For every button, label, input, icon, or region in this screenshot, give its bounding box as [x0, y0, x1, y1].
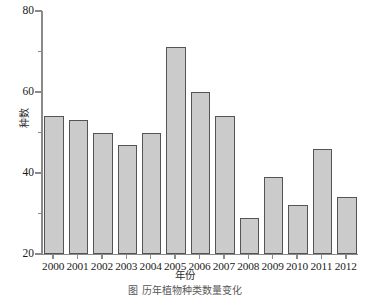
bar-rect [288, 205, 308, 254]
bar-rect [264, 177, 284, 254]
bar [288, 205, 308, 254]
bar [142, 133, 162, 255]
x-tick [150, 255, 152, 259]
y-tick-major [35, 91, 42, 93]
x-axis-title: 年份 [0, 270, 370, 281]
bar-rect [337, 197, 357, 254]
bar [118, 145, 138, 254]
bar [93, 133, 113, 255]
x-tick [101, 255, 103, 259]
bar [69, 120, 89, 254]
bar [337, 197, 357, 254]
plot-area [42, 12, 358, 254]
bar-rect [313, 149, 333, 254]
bar-rect [240, 218, 260, 254]
y-tick-label: 20 [0, 248, 34, 259]
x-tick [272, 255, 274, 259]
bar [240, 218, 260, 254]
x-tick [174, 255, 176, 259]
y-tick-label: 40 [0, 167, 34, 178]
bar [313, 149, 333, 254]
bar-rect [69, 120, 89, 254]
figure-caption: 图 历年植物种类数量变化 [0, 285, 370, 295]
bar-rect [142, 133, 162, 255]
x-tick [296, 255, 298, 259]
y-tick-label: 80 [0, 5, 34, 16]
bar-series [42, 12, 358, 254]
x-axis-ticks: 2000200120022003200420052006200720082009… [41, 255, 358, 271]
x-tick [248, 255, 250, 259]
bar-rect [191, 92, 211, 254]
bar [166, 47, 186, 254]
bar-rect [118, 145, 138, 254]
x-tick [52, 255, 54, 259]
x-tick [199, 255, 201, 259]
x-tick [345, 255, 347, 259]
x-tick [77, 255, 79, 259]
bar [44, 116, 64, 254]
x-tick [223, 255, 225, 259]
x-tick [321, 255, 323, 259]
bar-rect [93, 133, 113, 255]
bar-rect [166, 47, 186, 254]
y-axis-title: 种数 [20, 95, 30, 141]
figure-container: 种数 20406080 2000200120022003200420052006… [0, 0, 370, 295]
x-tick [126, 255, 128, 259]
bar [215, 116, 235, 254]
bar-rect [44, 116, 64, 254]
bar-rect [215, 116, 235, 254]
bar [264, 177, 284, 254]
y-tick-label: 60 [0, 86, 34, 97]
bar [191, 92, 211, 254]
y-tick-major [35, 172, 42, 174]
y-tick-major [35, 10, 42, 12]
